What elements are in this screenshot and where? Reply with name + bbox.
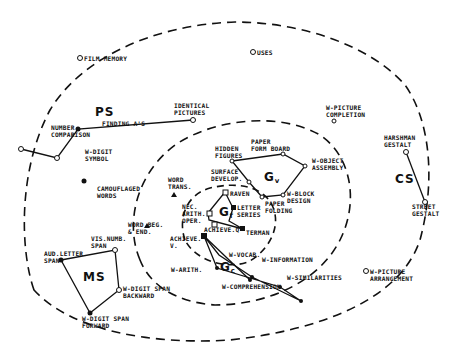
label-raven: RAVEN [230, 190, 250, 197]
cluster-cs-label: CS [395, 172, 415, 186]
label-nec-arith-oper: NEC. ARITH. OPER. [182, 203, 206, 224]
label-surface-develop: SURFACE DEVELOP. [211, 168, 242, 182]
label-paper-form-board: PAPER FORM BOARD [251, 138, 290, 152]
label-w-information: W-INFORMATION [262, 256, 313, 263]
label-w-similarities: W-SIMILARITIES [287, 274, 342, 281]
label-word-trans: WORD TRANS. [168, 176, 192, 190]
label-w-digit-span-forward: W-DIGIT SPAN FORWARD [82, 315, 129, 329]
label-w-comprehension: W-COMPREHENSION [222, 283, 281, 290]
label-film-memory: FILM MEMORY [84, 55, 127, 62]
label-achieve-q: ACHIEVE.Q [204, 226, 239, 233]
label-identical-pictures: IDENTICAL PICTURES [174, 102, 209, 116]
cluster-ps-label: PS [95, 105, 114, 119]
label-achieve-v: ACHIEVE. V. [170, 235, 201, 249]
label-w-digit-symbol: W-DIGIT SYMBOL [85, 148, 112, 162]
label-w-picture-arrangement: W-PICTURE ARRANGEMENT [370, 268, 413, 282]
label-terman: TERMAN [246, 229, 270, 236]
cluster-ms-label: MS [83, 270, 106, 284]
label-uses: USES [257, 49, 273, 56]
label-camouflaged-words: CAMOUFLAGED WORDS [97, 185, 140, 199]
cluster-gc-label: Gc [220, 260, 236, 275]
cluster-gv-label: Gv [264, 170, 280, 185]
label-w-arith: W-ARITH. [171, 266, 202, 273]
label-number-comparison: NUMBER COMPARISON [51, 124, 90, 138]
label-w-digit-span-backward: W-DIGIT SPAN BACKWARD [123, 285, 170, 299]
cluster-gf-label: Gf [219, 205, 234, 220]
label-harshman-gestalt: HARSHMAN GESTALT [384, 134, 415, 148]
label-vis-numb-span: VIS.NUMB. SPAN [91, 235, 126, 249]
label-hidden-figures: HIDDEN FIGURES [215, 145, 242, 159]
label-paper-folding: PAPER FOLDING [265, 200, 292, 214]
label-aud-letter-span: AUD.LETTER SPAN [44, 250, 83, 264]
label-w-vocab: W-VOCAB. [229, 251, 260, 258]
label-letter-series: LETTER SERIES [237, 204, 261, 218]
label-w-object-assembly: W-OBJECT ASSEMBLY [312, 157, 343, 171]
label-finding-as: FINDING A'S [102, 120, 145, 127]
label-word-beg-end: WORD BEG. & END. [128, 221, 163, 235]
radex-diagram: PS MS CS Gv Gf Gc FILM MEMORY USES IDENT… [0, 0, 467, 364]
label-street-gestalt: STREET GESTALT [412, 203, 439, 217]
label-w-picture-completion: W-PICTURE COMPLETION [326, 104, 365, 118]
